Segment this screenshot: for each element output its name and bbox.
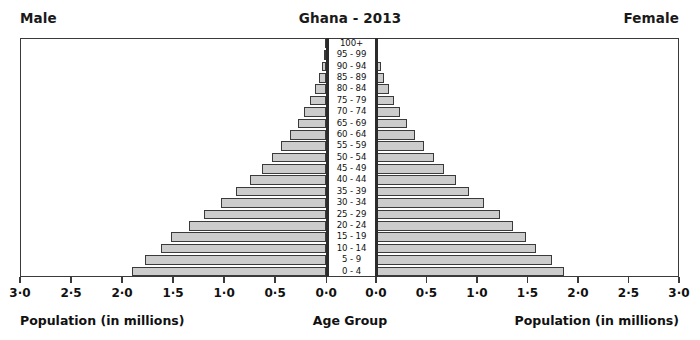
x-tick-left: [121, 277, 122, 283]
female-bar: [376, 119, 407, 129]
x-tick-right: [527, 277, 528, 283]
x-tick-label-left: 3·0: [9, 286, 30, 300]
female-bar: [376, 187, 469, 197]
age-group-label: 95 - 99: [327, 50, 376, 60]
x-tick-label-left: 2·5: [60, 286, 81, 300]
male-bar: [145, 255, 327, 265]
age-group-label: 10 - 14: [327, 244, 376, 254]
age-group-label: 0 - 4: [327, 267, 376, 277]
age-group-label: 25 - 29: [327, 210, 376, 220]
x-tick-right: [476, 277, 477, 283]
female-bar: [376, 96, 394, 106]
male-bar: [171, 232, 326, 242]
chart-title: Ghana - 2013: [0, 10, 700, 26]
female-bar: [376, 221, 513, 231]
population-pyramid-chart: Male Ghana - 2013 Female 100+95 - 9990 -…: [0, 0, 700, 340]
male-bar: [315, 84, 326, 94]
male-bar: [189, 221, 326, 231]
male-bar: [304, 107, 326, 117]
female-bar: [376, 232, 526, 242]
x-tick-left: [223, 277, 224, 283]
female-bar: [376, 130, 415, 140]
male-bar: [236, 187, 326, 197]
x-tick-right: [577, 277, 578, 283]
age-group-label: 40 - 44: [327, 175, 376, 185]
age-group-label: 85 - 89: [327, 73, 376, 83]
x-tick-left: [70, 277, 71, 283]
x-tick-left: [274, 277, 275, 283]
age-group-label: 50 - 54: [327, 153, 376, 163]
x-tick-label-right: 2·0: [567, 286, 588, 300]
age-group-label: 35 - 39: [327, 187, 376, 197]
x-tick-label-left: 0·0: [316, 286, 337, 300]
x-tick-label-right: 3·0: [668, 286, 689, 300]
female-bar: [376, 244, 536, 254]
x-tick-label-right: 0·5: [416, 286, 437, 300]
age-group-label: 55 - 59: [327, 141, 376, 151]
x-tick-right: [426, 277, 427, 283]
male-bar: [290, 130, 326, 140]
male-bar: [250, 175, 327, 185]
male-bar: [298, 119, 327, 129]
male-axis-baseline: [326, 38, 329, 277]
right-axis-title: Population (in millions): [515, 313, 679, 328]
age-group-label: 70 - 74: [327, 107, 376, 117]
female-bar: [376, 164, 444, 174]
age-group-label: 60 - 64: [327, 130, 376, 140]
age-group-label: 30 - 34: [327, 198, 376, 208]
x-tick-label-left: 1·0: [213, 286, 234, 300]
male-bar: [221, 198, 326, 208]
male-bar: [272, 153, 326, 163]
age-group-label: 20 - 24: [327, 221, 376, 231]
x-tick-label-right: 1·0: [466, 286, 487, 300]
female-bar: [376, 153, 434, 163]
x-tick-left: [172, 277, 173, 283]
female-axis-baseline: [375, 38, 378, 277]
x-tick-right: [678, 277, 679, 283]
female-bar: [376, 255, 552, 265]
age-group-label: 75 - 79: [327, 96, 376, 106]
x-tick-label-left: 2·0: [111, 286, 132, 300]
age-group-label: 100+: [327, 39, 376, 49]
age-group-label: 5 - 9: [327, 255, 376, 265]
x-tick-label-right: 1·5: [517, 286, 538, 300]
x-tick-label-left: 1·5: [162, 286, 183, 300]
male-bar: [132, 267, 326, 277]
male-bar: [161, 244, 326, 254]
age-group-label: 15 - 19: [327, 232, 376, 242]
age-group-label: 45 - 49: [327, 164, 376, 174]
female-bar: [376, 210, 500, 220]
male-bar: [262, 164, 326, 174]
x-tick-label-left: 0·5: [265, 286, 286, 300]
male-bar: [310, 96, 326, 106]
age-group-label: 80 - 84: [327, 84, 376, 94]
female-bar: [376, 84, 389, 94]
x-tick-label-right: 0·0: [365, 286, 386, 300]
female-side-label: Female: [624, 10, 679, 26]
x-tick-right: [628, 277, 629, 283]
female-bar: [376, 141, 424, 151]
female-bar: [376, 107, 400, 117]
male-bar: [281, 141, 326, 151]
x-tick-left: [19, 277, 20, 283]
age-group-label: 65 - 69: [327, 119, 376, 129]
x-tick-left: [326, 277, 327, 283]
male-bar: [204, 210, 326, 220]
x-tick-right: [375, 277, 376, 283]
x-tick-label-right: 2·5: [618, 286, 639, 300]
age-group-label: 90 - 94: [327, 62, 376, 72]
female-bar: [376, 175, 456, 185]
female-bar: [376, 267, 564, 277]
female-bar: [376, 198, 484, 208]
